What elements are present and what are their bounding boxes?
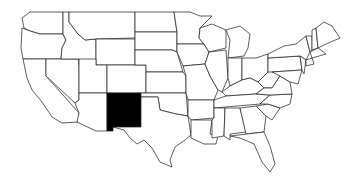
state-arizona[interactable] bbox=[75, 93, 107, 131]
state-connecticut[interactable] bbox=[306, 58, 314, 66]
state-iowa[interactable] bbox=[177, 44, 209, 66]
state-south-dakota[interactable] bbox=[135, 32, 177, 52]
state-maine[interactable] bbox=[316, 22, 340, 48]
state-arkansas[interactable] bbox=[188, 100, 214, 120]
state-michigan[interactable] bbox=[226, 26, 250, 58]
state-mississippi[interactable] bbox=[212, 108, 225, 138]
state-kansas[interactable] bbox=[146, 72, 186, 93]
state-pennsylvania[interactable] bbox=[268, 56, 302, 72]
state-wyoming[interactable] bbox=[96, 39, 135, 65]
us-map bbox=[0, 0, 364, 182]
state-new-mexico[interactable] bbox=[107, 93, 141, 131]
state-new-york[interactable] bbox=[268, 36, 310, 60]
state-north-dakota[interactable] bbox=[135, 12, 177, 32]
state-colorado[interactable] bbox=[107, 65, 146, 93]
state-florida[interactable] bbox=[230, 132, 275, 172]
